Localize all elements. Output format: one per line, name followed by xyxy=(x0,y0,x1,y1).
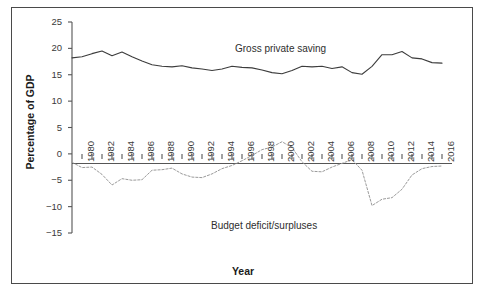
x-tick-label: 2002 xyxy=(306,141,316,162)
y-tick-label: −15 xyxy=(36,228,62,238)
x-tick-label: 1986 xyxy=(146,141,156,162)
y-tick-label: −5 xyxy=(36,175,62,185)
annotation-budget-deficit-surpluses: Budget deficit/surpluses xyxy=(211,220,317,231)
x-tick-label: 2010 xyxy=(386,141,396,162)
x-tick-label: 2012 xyxy=(406,141,416,162)
series-line-gross-private-saving xyxy=(72,51,442,74)
y-tick-label: −10 xyxy=(36,202,62,212)
x-tick-label: 1998 xyxy=(266,141,276,162)
x-tick-label: 1988 xyxy=(166,141,176,162)
x-tick-label: 1990 xyxy=(186,141,196,162)
annotation-gross-private-saving: Gross private saving xyxy=(235,43,326,54)
chart-frame: 2520151050−5−10−15 198019821984198619881… xyxy=(11,7,473,284)
x-tick-label: 2008 xyxy=(366,141,376,162)
x-tick-label: 1980 xyxy=(86,141,96,162)
x-tick-label: 2000 xyxy=(286,141,296,162)
y-tick-label: 10 xyxy=(36,96,62,106)
x-tick-label: 2004 xyxy=(326,141,336,162)
y-tick-label: 25 xyxy=(36,17,62,27)
x-tick-label: 1994 xyxy=(226,141,236,162)
y-tick-label: 20 xyxy=(36,43,62,53)
y-tick-label: 5 xyxy=(36,123,62,133)
x-tick-label: 2016 xyxy=(446,141,456,162)
x-tick-label: 1992 xyxy=(206,141,216,162)
x-tick-label: 2006 xyxy=(346,141,356,162)
y-axis-title: Percentage of GDP xyxy=(24,62,36,182)
y-tick-label: 0 xyxy=(36,149,62,159)
x-tick-label: 1982 xyxy=(106,141,116,162)
x-axis-title: Year xyxy=(12,265,474,277)
y-tick-marks xyxy=(68,22,72,233)
y-tick-label: 15 xyxy=(36,70,62,80)
x-tick-label: 2014 xyxy=(426,141,436,162)
x-tick-label: 1996 xyxy=(246,141,256,162)
x-tick-label: 1984 xyxy=(126,141,136,162)
chart-figure: 2520151050−5−10−15 198019821984198619881… xyxy=(0,0,485,295)
